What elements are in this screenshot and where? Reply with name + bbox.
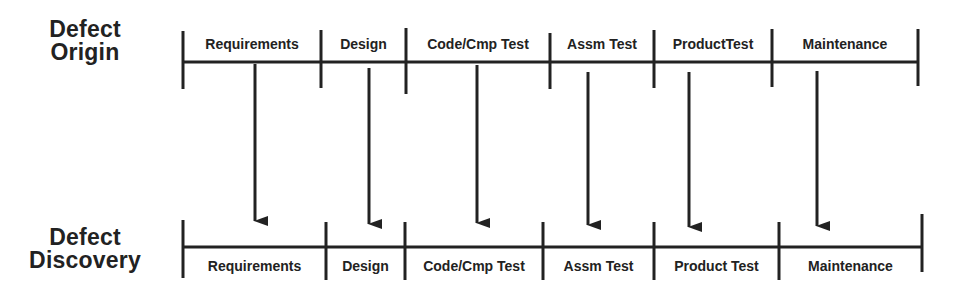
origin-phase-code-cmp-test: Code/Cmp Test [406, 36, 550, 52]
discovery-phase-design: Design [326, 258, 405, 274]
origin-phase-requirements: Requirements [183, 36, 321, 52]
discovery-phase-assm-test: Assm Test [543, 258, 654, 274]
discovery-phase-maintenance: Maintenance [779, 258, 922, 274]
origin-phase-assm-test: Assm Test [550, 36, 654, 52]
origin-phase-product-test: ProductTest [654, 36, 772, 52]
arrows [255, 64, 817, 227]
origin-phase-maintenance: Maintenance [772, 36, 918, 52]
discovery-phase-code-cmp-test: Code/Cmp Test [405, 258, 543, 274]
discovery-phase-product-test: Product Test [654, 258, 779, 274]
discovery-phase-requirements: Requirements [183, 258, 326, 274]
origin-phase-design: Design [321, 36, 406, 52]
defect-origin-discovery-diagram: Defect Origin Defect Discovery [0, 0, 957, 293]
